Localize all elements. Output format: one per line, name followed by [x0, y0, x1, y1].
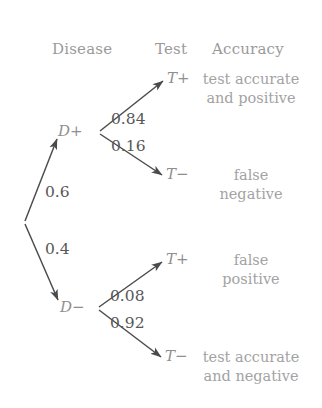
probability-false-positive: 0.08 [110, 287, 145, 305]
probability-true-positive: 0.84 [111, 110, 146, 128]
probability-disease-negative: 0.4 [45, 240, 70, 258]
column-header-test: Test [155, 41, 187, 59]
outcome-true-negative-line1: test accurate [195, 348, 307, 367]
outcome-true-positive: test accurate and positive [195, 70, 307, 108]
outcome-true-negative: test accurate and negative [195, 348, 307, 386]
probability-disease-positive: 0.6 [45, 183, 70, 201]
edge-root-to-disease-positive [25, 139, 57, 221]
outcome-true-positive-line2: and positive [195, 89, 307, 108]
edge-root-to-disease-negative [25, 224, 58, 300]
outcome-false-negative-line1: false [195, 166, 307, 185]
probability-true-negative: 0.92 [110, 314, 145, 332]
node-label-test-negative-lower: T− [165, 348, 188, 366]
node-label-disease-positive: D+ [58, 123, 83, 141]
column-header-accuracy: Accuracy [212, 41, 284, 59]
node-label-test-positive-lower: T+ [166, 251, 189, 269]
node-label-disease-negative: D− [60, 299, 85, 317]
outcome-false-positive: false positive [195, 251, 307, 289]
node-label-test-negative-upper: T− [166, 166, 189, 184]
node-label-test-positive-upper: T+ [167, 70, 190, 88]
column-header-disease: Disease [52, 41, 112, 59]
outcome-true-positive-line1: test accurate [195, 70, 307, 89]
outcome-true-negative-line2: and negative [195, 367, 307, 386]
outcome-false-negative: false negative [195, 166, 307, 204]
probability-tree-diagram: Disease Test Accuracy D+ D− T+ T− T+ T− … [0, 0, 322, 408]
outcome-false-positive-line1: false [195, 251, 307, 270]
probability-false-negative: 0.16 [111, 137, 146, 155]
outcome-false-negative-line2: negative [195, 185, 307, 204]
outcome-false-positive-line2: positive [195, 270, 307, 289]
